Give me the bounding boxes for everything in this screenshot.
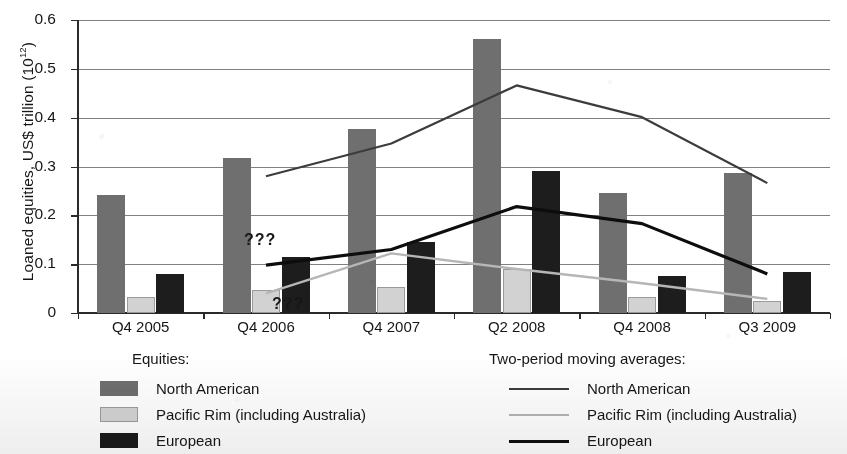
y-axis-tick-label: 0.5 [0, 59, 56, 77]
x-axis-tick-mark [830, 313, 831, 319]
y-axis-tick-mark [71, 69, 79, 70]
y-axis-tick-mark [71, 118, 79, 119]
y-axis-tick-mark [71, 313, 79, 314]
line-swatch-pacific-rim-icon [509, 407, 569, 422]
y-axis-tick-mark [71, 20, 79, 21]
moving-average-lines-layer [78, 20, 830, 313]
legend-label: Pacific Rim (including Australia) [156, 406, 366, 423]
legend-label: North American [156, 380, 259, 397]
legend-item-average-pacific-rim: Pacific Rim (including Australia) [483, 401, 797, 427]
x-axis-tick-label: Q4 2008 [613, 318, 671, 335]
y-axis-tick-label: 0 [0, 303, 56, 321]
legend-label: Pacific Rim (including Australia) [587, 406, 797, 423]
legend-label: European [587, 432, 652, 449]
legend-item-equities-european: European [100, 427, 366, 453]
y-axis-tick-label: 0.4 [0, 108, 56, 126]
line-swatch-european-icon [509, 433, 569, 448]
y-axis-tick-label: 0.6 [0, 10, 56, 28]
y-axis-tick-mark [71, 167, 79, 168]
legend-item-equities-pacific-rim: Pacific Rim (including Australia) [100, 401, 366, 427]
legend-equities: Equities: North American Pacific Rim (in… [100, 350, 366, 453]
y-axis-tick-labels: 0.60.50.40.30.20.10 [0, 0, 56, 348]
line-swatch-north-american-icon [509, 381, 569, 396]
x-axis-tick-label: Q4 2006 [237, 318, 295, 335]
x-axis-tick-label: Q4 2005 [112, 318, 170, 335]
legend-moving-averages: Two-period moving averages: North Americ… [483, 350, 797, 453]
legend-equities-heading: Equities: [132, 350, 366, 367]
swatch-pacific-rim-icon [100, 407, 138, 422]
x-axis-tick-label: Q2 2008 [488, 318, 546, 335]
y-axis-tick-label: 0.1 [0, 254, 56, 272]
y-axis-tick-label: 0.3 [0, 157, 56, 175]
x-axis-tick-labels: Q4 2005Q4 2006Q4 2007Q2 2008Q4 2008Q3 20… [78, 318, 830, 344]
y-axis-tick-mark [71, 215, 79, 216]
legend-item-average-european: European [483, 427, 797, 453]
legend-item-average-north-american: North American [483, 375, 797, 401]
y-axis-tick-label: 0.2 [0, 205, 56, 223]
legend-label: European [156, 432, 221, 449]
x-axis-tick-label: Q4 2007 [363, 318, 421, 335]
annotation-pacific-rim-moving-average: ??? [272, 295, 304, 313]
moving-average-line-north-american [266, 85, 767, 183]
legend-label: North American [587, 380, 690, 397]
moving-average-line-european [266, 207, 767, 274]
legend-moving-averages-heading: Two-period moving averages: [489, 350, 797, 367]
x-axis-tick-label: Q3 2009 [739, 318, 797, 335]
swatch-european-icon [100, 433, 138, 448]
annotation-european-moving-average: ??? [244, 231, 276, 249]
y-axis-tick-mark [71, 264, 79, 265]
swatch-north-american-icon [100, 381, 138, 396]
plot-canvas: ?????? [78, 20, 830, 313]
legend-item-equities-north-american: North American [100, 375, 366, 401]
chart-legends: Equities: North American Pacific Rim (in… [0, 348, 847, 454]
moving-average-line-pacific-rim [266, 253, 767, 298]
chart-plot-area: Loaned equities, US$ trillion (1012) 0.6… [0, 0, 847, 348]
